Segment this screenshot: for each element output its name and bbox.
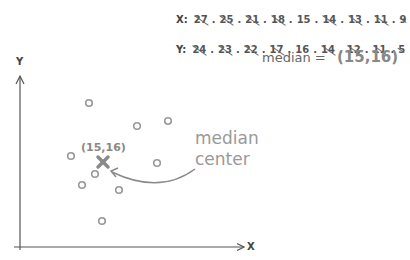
median-x-marker-icon (98, 157, 108, 167)
data-point (92, 171, 99, 178)
callout-arrow (112, 169, 195, 183)
y-axis-label: Y (16, 56, 23, 67)
data-point (86, 100, 93, 107)
data-point (134, 123, 141, 130)
data-point (154, 160, 161, 167)
callout-line-2: center (195, 149, 259, 170)
callout-line-1: median (195, 128, 259, 149)
data-point (116, 187, 123, 194)
median-center-callout: median center (195, 128, 259, 170)
data-point (165, 118, 172, 125)
data-point (99, 218, 106, 225)
median-point-label: (15,16) (81, 141, 126, 154)
data-point (79, 182, 86, 189)
data-points (68, 100, 172, 225)
data-point (68, 153, 75, 160)
x-axis-label: X (247, 241, 255, 252)
